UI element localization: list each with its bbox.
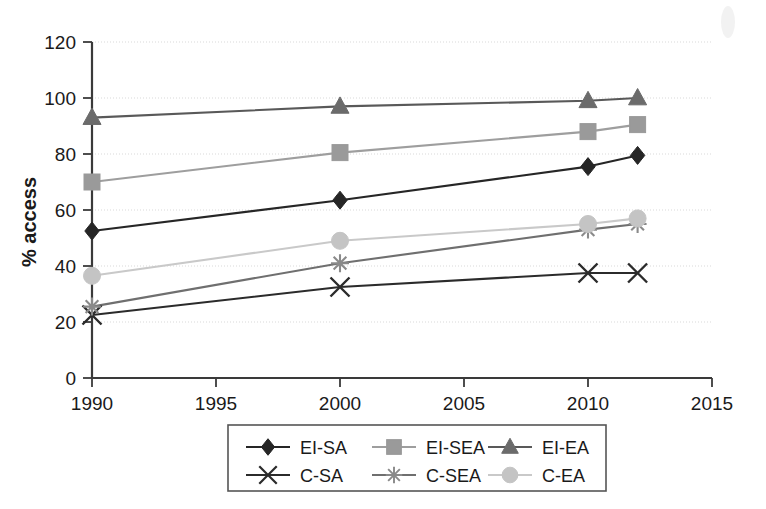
marker-diamond [333,191,347,209]
legend-label-ei-sea: EI-SEA [426,438,485,458]
marker-circle [332,232,349,249]
marker-diamond [630,146,644,164]
legend-label-c-sea: C-SEA [426,466,481,486]
marker-circle [502,467,518,483]
legend-label-c-sa: C-SA [300,466,343,486]
marker-circle [629,210,646,227]
y-tick-label-40: 40 [55,256,76,277]
marker-diamond [85,222,99,240]
y-tick-label-80: 80 [55,144,76,165]
marker-asterisk [83,298,101,316]
y-axis-title: % access [18,177,40,267]
marker-square [332,145,348,161]
marker-diamond [581,158,595,176]
series-lines-group [92,98,638,315]
y-axis-ticks-group: 020406080100120 [44,32,92,389]
x-tick-label-2000: 2000 [319,393,361,414]
x-tick-label-2010: 2010 [567,393,609,414]
legend-label-ei-sa: EI-SA [300,438,347,458]
marker-square [630,117,646,133]
marker-square [84,174,100,190]
x-tick-label-1995: 1995 [195,393,237,414]
x-tick-label-2015: 2015 [691,393,733,414]
series-line-c-sa [92,273,638,315]
series-line-c-ea [92,218,638,275]
chart-legend: EI-SAEI-SEAEI-EAC-SAC-SEAC-EA [228,425,606,491]
chart-figure: 020406080100120 199019952000200520102015… [0,0,766,509]
series-line-ei-ea [92,98,638,118]
marker-asterisk [386,467,403,484]
series-line-ei-sea [92,125,638,182]
series-markers-ei-sea [84,117,646,190]
x-axis-ticks-group: 199019952000200520102015 [71,378,733,414]
gridlines-group [92,42,712,322]
marker-circle [580,216,597,233]
legend-label-c-ea: C-EA [542,466,585,486]
y-tick-label-120: 120 [44,32,76,53]
marker-circle [84,267,101,284]
line-chart-svg: 020406080100120 199019952000200520102015… [0,0,766,509]
marker-square [387,440,402,455]
marker-asterisk [331,254,349,272]
marker-triangle [331,97,349,113]
y-tick-label-20: 20 [55,312,76,333]
scan-artifact [721,6,735,38]
marker-square [580,124,596,140]
x-tick-label-1990: 1990 [71,393,113,414]
series-markers-group [83,89,648,325]
y-tick-label-0: 0 [65,368,76,389]
x-tick-label-2005: 2005 [443,393,485,414]
y-tick-label-100: 100 [44,88,76,109]
legend-label-ei-ea: EI-EA [542,438,589,458]
marker-triangle [629,89,647,105]
series-line-ei-sa [92,155,638,231]
y-tick-label-60: 60 [55,200,76,221]
